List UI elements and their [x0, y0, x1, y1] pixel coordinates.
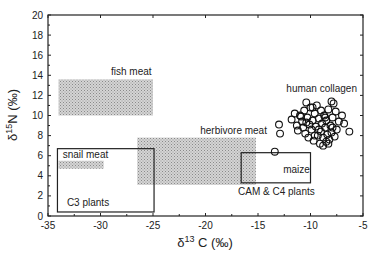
herbivore-meat-label: herbivore meat — [200, 125, 267, 136]
human-collagen-label: human collagen — [286, 83, 357, 94]
y-tick-label: 20 — [32, 10, 44, 21]
data-point — [318, 107, 325, 114]
fish-meat-label: fish meat — [111, 66, 152, 77]
y-tick-label: 4 — [37, 170, 43, 181]
data-point — [332, 108, 339, 115]
y-tick-label: 14 — [32, 70, 44, 81]
y-tick-label: 18 — [32, 30, 44, 41]
data-point — [346, 128, 353, 135]
isotope-scatter-chart: -35-30-25-20-15-10-502468101214161820 fi… — [0, 0, 376, 262]
herbivore-meat-region — [137, 138, 256, 185]
x-axis-label: δ13 C (‰) — [177, 234, 233, 250]
y-tick-label: 10 — [32, 110, 44, 121]
x-tick-label: -25 — [146, 220, 161, 231]
snail-meat-region — [59, 161, 104, 169]
data-point — [276, 121, 283, 128]
snail-meat-label: snail meat — [63, 149, 109, 160]
y-tick-label: 0 — [37, 211, 43, 222]
y-tick-label: 2 — [37, 190, 43, 201]
data-point — [325, 106, 332, 113]
y-axis-label: δ15N (‰) — [4, 89, 20, 141]
cam-c4-plants-label: CAM & C4 plants — [238, 186, 315, 197]
data-point — [271, 148, 278, 155]
y-tick-label: 12 — [32, 90, 44, 101]
y-tick-label: 8 — [37, 130, 43, 141]
x-tick-label: -20 — [198, 220, 213, 231]
x-tick-label: -15 — [251, 220, 266, 231]
human-collagen-points — [271, 98, 352, 155]
maize-label: maize — [283, 164, 310, 175]
x-tick-label: -35 — [41, 220, 56, 231]
data-point — [333, 126, 340, 133]
y-tick-label: 16 — [32, 50, 44, 61]
x-tick-label: -10 — [303, 220, 318, 231]
y-tick-label: 6 — [37, 150, 43, 161]
fish-meat-region — [59, 79, 154, 115]
x-tick-label: -5 — [359, 220, 368, 231]
data-point — [339, 112, 346, 119]
x-tick-label: -30 — [93, 220, 108, 231]
c3-plants-label: C3 plants — [67, 197, 109, 208]
data-point — [277, 130, 284, 137]
